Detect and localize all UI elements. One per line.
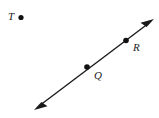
point-label-T: T [8, 11, 14, 22]
geometry-figure: T Q R [0, 0, 159, 118]
figure-background [0, 0, 159, 118]
point-dot-T [18, 15, 23, 20]
point-dot-R [123, 38, 129, 44]
point-dot-Q [84, 64, 90, 70]
point-label-Q: Q [94, 70, 102, 81]
figure-canvas [0, 0, 159, 118]
point-label-R: R [133, 42, 140, 53]
